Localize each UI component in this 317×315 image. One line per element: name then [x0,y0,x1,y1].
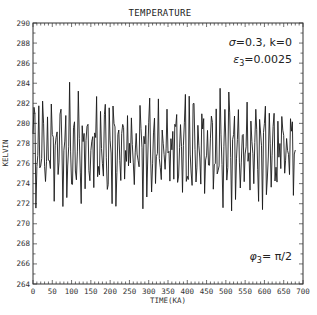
x-tick-label: 150 [84,287,98,296]
y-tick-label: 276 [16,159,30,168]
x-tick-label: 300 [142,287,156,296]
y-tick-label: 280 [16,119,30,128]
x-tick-label: 200 [103,287,117,296]
y-tick-label: 266 [16,259,30,268]
y-tick-label: 284 [16,79,30,88]
y-tick-label: 264 [16,280,30,289]
x-tick-label: 700 [296,287,310,296]
temperature-chart: TEMPERATURE 2642662682702722742762782802… [0,0,317,315]
annotation-epsilon: ε3=0.0025 [233,53,292,68]
x-tick-label: 550 [238,287,252,296]
x-tick-labels: 0501001502002503003504004505005506006507… [31,287,311,296]
x-tick-label: 50 [48,287,58,296]
chart-title: TEMPERATURE [129,8,192,18]
x-tick-label: 400 [181,287,195,296]
annotation-phi: φ3= π/2 [250,250,292,265]
x-tick-label: 100 [65,287,79,296]
x-tick-label: 250 [123,287,137,296]
y-tick-label: 290 [16,19,30,28]
x-tick-label: 350 [161,287,175,296]
y-tick-label: 274 [16,179,30,188]
x-tick-label: 0 [31,287,36,296]
x-tick-label: 600 [258,287,272,296]
x-axis-label: TIME(KA) [150,296,186,305]
x-tick-label: 500 [219,287,233,296]
y-tick-label: 268 [16,239,30,248]
y-tick-labels: 2642662682702722742762782802822842862882… [16,19,30,289]
y-tick-label: 278 [16,139,30,148]
y-tick-label: 286 [16,59,30,68]
y-tick-label: 282 [16,99,30,108]
annotation-sigma-k: σ=0.3, k=0 [229,36,292,49]
y-tick-label: 272 [16,199,30,208]
x-tick-label: 450 [200,287,214,296]
x-tick-label: 650 [277,287,291,296]
y-tick-label: 288 [16,39,30,48]
y-axis-label: KELVIN [1,139,10,166]
y-tick-label: 270 [16,219,30,228]
data-series [33,82,295,211]
